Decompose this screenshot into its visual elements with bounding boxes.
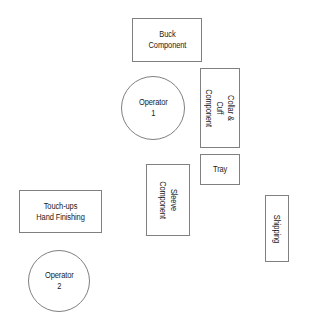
node-label-tray: Tray bbox=[213, 164, 227, 175]
node-collar-cuff-component[interactable]: Collar & Cuff Component bbox=[200, 68, 240, 148]
node-label-buck-component: Buck Component bbox=[148, 29, 186, 51]
vertical-label-wrapper: Shipping bbox=[272, 212, 283, 244]
vertical-label-wrapper: Collar & Cuff Component bbox=[204, 87, 237, 130]
node-label-shipping: Shipping bbox=[272, 214, 283, 242]
node-label-operator-2: Operator 2 bbox=[45, 270, 74, 292]
node-touch-ups-hand-finishing[interactable]: Touch-ups Hand Finishing bbox=[19, 190, 102, 233]
node-shipping[interactable]: Shipping bbox=[265, 195, 289, 262]
node-operator-1[interactable]: Operator 1 bbox=[121, 76, 185, 140]
node-label-sleeve-component: Sleeve Component bbox=[157, 181, 179, 219]
node-sleeve-component[interactable]: Sleeve Component bbox=[146, 164, 190, 236]
workstation-layout-diagram: Buck Component Operator 1 Collar & Cuff … bbox=[0, 0, 310, 322]
node-buck-component[interactable]: Buck Component bbox=[132, 18, 202, 62]
node-tray[interactable]: Tray bbox=[200, 154, 240, 185]
node-label-collar-cuff-component: Collar & Cuff Component bbox=[204, 89, 237, 127]
node-operator-2[interactable]: Operator 2 bbox=[28, 250, 90, 312]
vertical-label-wrapper: Sleeve Component bbox=[157, 179, 179, 222]
node-label-touch-ups-hand-finishing: Touch-ups Hand Finishing bbox=[36, 201, 84, 223]
node-label-operator-1: Operator 1 bbox=[139, 97, 168, 119]
